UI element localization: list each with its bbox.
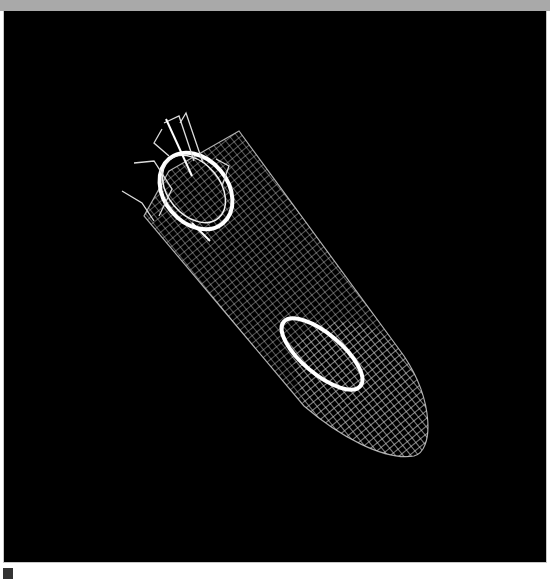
render-viewport: [3, 11, 547, 563]
rocket-body: [4, 11, 547, 563]
rocket-wireframe: [4, 11, 547, 563]
corner-marker: [3, 568, 13, 579]
top-frame-band: [0, 0, 550, 11]
